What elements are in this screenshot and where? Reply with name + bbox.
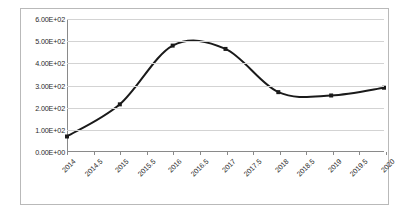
y-axis-tick-label: 2.00E+02 bbox=[35, 103, 65, 112]
chart-plot-wrapper: 0.00E+001.00E+022.00E+023.00E+024.00E+02… bbox=[21, 9, 388, 204]
x-axis-tick-label: 2016.5 bbox=[189, 157, 210, 178]
gridline bbox=[67, 108, 384, 109]
y-axis-tick-label: 0.00E+00 bbox=[35, 148, 65, 157]
x-axis-tick-labels: 20142014.520152015.520162016.520172017.5… bbox=[67, 155, 384, 203]
y-axis-tick-label: 4.00E+02 bbox=[35, 59, 65, 68]
x-axis-tick-label: 2015.5 bbox=[136, 157, 157, 178]
chart-frame: 0.00E+001.00E+022.00E+023.00E+024.00E+02… bbox=[20, 8, 389, 205]
x-axis-tick-label: 2015 bbox=[113, 157, 130, 174]
chart-plot-area bbox=[67, 19, 384, 152]
gridline bbox=[67, 19, 384, 20]
x-axis-tick-label: 2019 bbox=[326, 157, 343, 174]
gridline bbox=[67, 41, 384, 42]
y-axis-tick-label: 3.00E+02 bbox=[35, 81, 65, 90]
series-data-point bbox=[329, 93, 333, 97]
y-axis-tick-label: 5.00E+02 bbox=[35, 37, 65, 46]
series-data-point bbox=[171, 44, 175, 48]
gridline bbox=[67, 130, 384, 131]
x-axis-tick-label: 2014.5 bbox=[82, 157, 103, 178]
y-axis-tick-label: 1.00E+02 bbox=[35, 125, 65, 134]
x-axis-tick-label: 2017 bbox=[219, 157, 236, 174]
x-axis-tick-label: 2018 bbox=[273, 157, 290, 174]
gridline bbox=[67, 63, 384, 64]
x-axis-tick-mark bbox=[386, 152, 387, 155]
x-axis-tick-label: 2018.5 bbox=[295, 157, 316, 178]
series-data-point bbox=[118, 102, 122, 106]
y-axis-tick-labels: 0.00E+001.00E+022.00E+023.00E+024.00E+02… bbox=[21, 9, 65, 204]
series-line bbox=[67, 41, 384, 137]
x-axis-tick-label: 2020 bbox=[379, 157, 396, 174]
x-axis-tick-label: 2017.5 bbox=[242, 157, 263, 178]
x-axis-tick-label: 2019.5 bbox=[348, 157, 369, 178]
series-data-point bbox=[276, 90, 280, 94]
x-axis-tick-label: 2016 bbox=[166, 157, 183, 174]
series-data-point bbox=[65, 134, 69, 138]
gridline bbox=[67, 86, 384, 87]
y-axis-tick-label: 6.00E+02 bbox=[35, 15, 65, 24]
series-data-point bbox=[224, 47, 228, 51]
